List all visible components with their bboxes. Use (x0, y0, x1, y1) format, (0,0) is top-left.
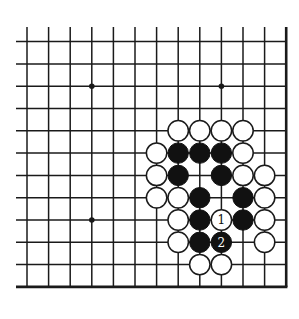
white-stone-disc (233, 165, 253, 185)
white-stone-disc (211, 254, 231, 274)
white-stone (168, 121, 188, 141)
white-stone-disc (168, 232, 188, 252)
white-stone-disc (254, 232, 274, 252)
black-stone-disc (190, 143, 210, 163)
white-stone-disc (146, 188, 166, 208)
black-stone (168, 143, 188, 163)
black-stone-disc (211, 143, 231, 163)
black-stone-disc (168, 143, 188, 163)
star-point (89, 217, 95, 223)
white-stone-disc (211, 121, 231, 141)
move-number-label: 2 (218, 236, 226, 250)
white-stone-move-1: 1 (211, 210, 231, 230)
white-stone-disc (168, 121, 188, 141)
black-stone (190, 232, 210, 252)
black-stone (190, 210, 210, 230)
black-stone-disc (168, 165, 188, 185)
white-stone-disc (168, 210, 188, 230)
black-stone (168, 165, 188, 185)
star-point (219, 83, 225, 89)
white-stone (233, 143, 253, 163)
black-stone-disc (233, 210, 253, 230)
move-number-label: 1 (218, 213, 226, 227)
white-stone (190, 254, 210, 274)
white-stone-disc (190, 254, 210, 274)
white-stone-disc (254, 188, 274, 208)
white-stone (211, 121, 231, 141)
black-stone (211, 143, 231, 163)
white-stone (211, 254, 231, 274)
white-stone-disc (168, 188, 188, 208)
white-stone (168, 232, 188, 252)
black-stone (233, 210, 253, 230)
star-point (89, 83, 95, 89)
black-stone-disc (233, 188, 253, 208)
white-stone-disc (254, 210, 274, 230)
white-stone (146, 165, 166, 185)
black-stone-disc (190, 210, 210, 230)
black-stone-disc (211, 165, 231, 185)
white-stone (254, 232, 274, 252)
go-board: 12 (0, 0, 299, 319)
white-stone (254, 210, 274, 230)
white-stone (168, 188, 188, 208)
white-stone (233, 165, 253, 185)
white-stone-disc (146, 165, 166, 185)
white-stone-disc (190, 121, 210, 141)
white-stone-disc (146, 143, 166, 163)
white-stone (254, 165, 274, 185)
white-stone (146, 188, 166, 208)
black-stone (211, 165, 231, 185)
white-stone (146, 143, 166, 163)
white-stone-disc (233, 143, 253, 163)
black-stone-disc (190, 232, 210, 252)
black-stone (190, 143, 210, 163)
white-stone (168, 210, 188, 230)
black-stone-disc (190, 188, 210, 208)
white-stone (190, 121, 210, 141)
white-stone-disc (233, 121, 253, 141)
black-stone-move-2: 2 (211, 232, 231, 252)
white-stone (254, 188, 274, 208)
black-stone (233, 188, 253, 208)
white-stone-disc (254, 165, 274, 185)
white-stone (233, 121, 253, 141)
black-stone (190, 188, 210, 208)
